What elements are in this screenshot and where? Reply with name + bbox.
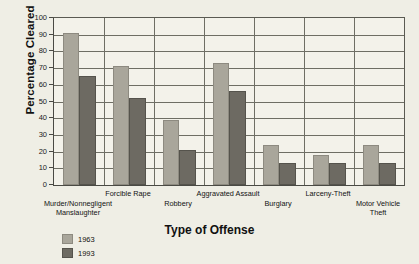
bar-chart: Percentage Cleared 100908070605040302010… bbox=[0, 0, 419, 264]
legend-item: 1993 bbox=[62, 247, 95, 259]
y-tick bbox=[49, 151, 53, 152]
y-tick-label: 40 bbox=[39, 113, 47, 122]
x-axis-label: Larceny-Theft bbox=[268, 189, 388, 198]
legend-swatch-1963 bbox=[62, 234, 73, 244]
y-tick bbox=[49, 50, 53, 51]
y-tick-label: 10 bbox=[39, 163, 47, 172]
y-tick bbox=[49, 184, 53, 185]
legend-label-1963: 1963 bbox=[78, 235, 95, 244]
y-tick bbox=[49, 134, 53, 135]
y-tick bbox=[49, 34, 53, 35]
y-tick bbox=[49, 101, 53, 102]
y-tick-label: 50 bbox=[39, 96, 47, 105]
y-axis-title: Percentage Cleared bbox=[20, 0, 40, 145]
x-axis-label: Motor VehicleTheft bbox=[318, 199, 419, 217]
y-tick-label: 80 bbox=[39, 46, 47, 55]
y-tick-label: 100 bbox=[34, 13, 47, 22]
y-tick bbox=[49, 84, 53, 85]
y-tick bbox=[49, 67, 53, 68]
legend-swatch-1993 bbox=[62, 248, 73, 258]
y-tick-label: 60 bbox=[39, 79, 47, 88]
y-tick-label: 70 bbox=[39, 63, 47, 72]
legend-item: 1963 bbox=[62, 233, 95, 245]
y-tick bbox=[49, 17, 53, 18]
chart-legend: 1963 1993 bbox=[62, 233, 95, 261]
y-tick bbox=[49, 167, 53, 168]
y-tick-label: 30 bbox=[39, 129, 47, 138]
y-axis-ticks: 1009080706050403020100 bbox=[53, 17, 403, 184]
legend-label-1993: 1993 bbox=[78, 249, 95, 258]
y-tick-label: 0 bbox=[43, 180, 47, 189]
y-tick bbox=[49, 117, 53, 118]
y-tick-label: 20 bbox=[39, 146, 47, 155]
y-tick-label: 90 bbox=[39, 29, 47, 38]
